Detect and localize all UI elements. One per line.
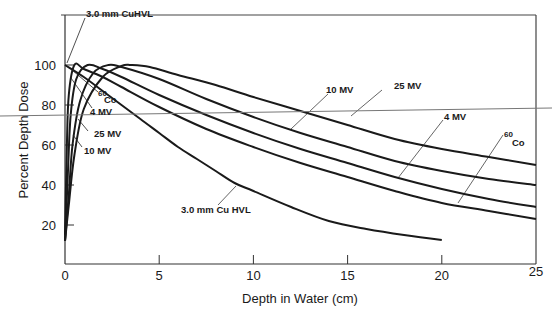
axis-ticks (65, 65, 442, 264)
label-4mv-right: 4 MV (444, 111, 467, 122)
label-25mv-right: 25 MV (394, 80, 422, 91)
dose-curves (65, 64, 536, 241)
x-axis-title: Depth in Water (cm) (242, 291, 358, 306)
label-4mv-left: 4 MV (90, 106, 113, 117)
label-25mv-left: 25 MV (94, 128, 122, 139)
y-tick-label: 40 (42, 178, 56, 193)
x-tick-label: 0 (61, 268, 68, 283)
depth-dose-chart: 051015202520406080100 3.0 mm CuHVL 60 Co… (0, 0, 552, 321)
axis-tick-labels: 051015202520406080100 (34, 58, 543, 283)
label-hvl-top: 3.0 mm CuHVL (86, 8, 153, 19)
y-tick-label: 80 (42, 98, 56, 113)
plot-frame (61, 15, 536, 264)
x-tick-label: 20 (435, 268, 449, 283)
y-tick-label: 60 (42, 138, 56, 153)
curve-25-mv (65, 65, 536, 241)
label-co-left: Co (104, 94, 117, 105)
x-tick-label: 25 (529, 264, 543, 279)
y-axis-title: Percent Depth Dose (16, 81, 31, 198)
label-10mv-left: 10 MV (84, 145, 112, 156)
x-tick-label: 15 (340, 268, 354, 283)
label-10mv-right: 10 MV (326, 84, 354, 95)
label-co-right: Co (512, 137, 525, 148)
chart-canvas: 051015202520406080100 3.0 mm CuHVL 60 Co… (0, 0, 552, 321)
x-tick-label: 10 (246, 268, 260, 283)
label-hvl-bottom: 3.0 mm Cu HVL (181, 204, 251, 215)
y-tick-label: 20 (42, 218, 56, 233)
x-tick-label: 5 (156, 268, 163, 283)
curve-3-0-mm-cu-hvl (65, 65, 442, 240)
y-tick-label: 100 (34, 58, 56, 73)
